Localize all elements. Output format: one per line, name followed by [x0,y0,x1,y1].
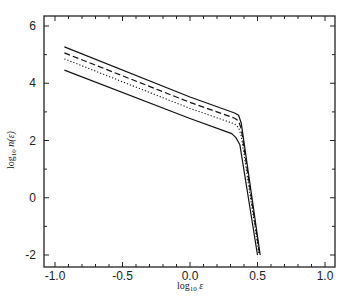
y-tick-label: -2 [25,248,36,262]
x-tick-label: 1.0 [317,269,334,283]
series-line-solid-lower [64,70,257,255]
series-line-dashed [64,53,259,254]
series-line-solid-upper [64,47,260,255]
y-tick-label: 2 [29,134,36,148]
y-axis-label: log10 n(ε) [5,130,18,169]
plot-border [44,16,335,267]
x-tick-label: -0.5 [112,269,133,283]
x-tick-label: -1.0 [45,269,66,283]
plot-frame [44,16,335,267]
data-series [64,47,260,255]
y-tick-label: 0 [29,191,36,205]
y-tick-label: 6 [29,19,36,33]
axis-ticks [44,16,335,267]
series-line-dotted [64,59,259,254]
x-tick-label: 0.5 [249,269,266,283]
chart: -1.0-0.50.00.51.0 -20246 log10 ε log10 n… [0,0,349,305]
y-tick-labels: -20246 [25,19,36,262]
y-tick-label: 4 [29,76,36,90]
